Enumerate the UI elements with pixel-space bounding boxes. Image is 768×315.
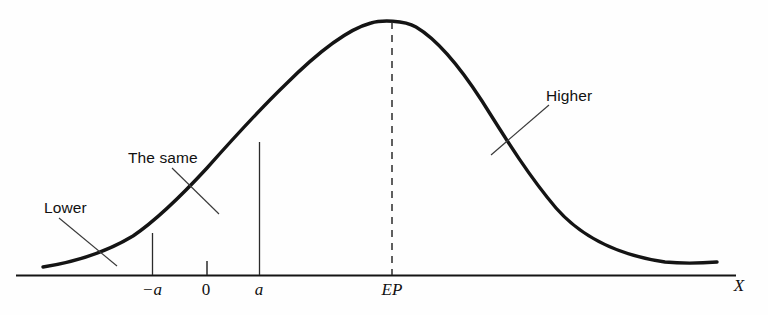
- normal-curve-figure: Lower The same Higher −a 0 a EP X: [0, 0, 768, 315]
- figure-svg: Lower The same Higher −a 0 a EP X: [0, 0, 768, 315]
- annotation-higher: Higher: [546, 87, 592, 104]
- leader-line-the-same: [172, 168, 219, 214]
- distribution-curve: [43, 21, 717, 267]
- leader-line-lower: [59, 218, 117, 266]
- annotation-the-same: The same: [128, 149, 198, 166]
- tick-label-ep: EP: [381, 280, 403, 299]
- annotation-lower: Lower: [44, 199, 87, 216]
- x-axis-label: X: [733, 276, 745, 295]
- tick-label-zero: 0: [202, 280, 211, 299]
- tick-label-a: a: [255, 280, 264, 299]
- tick-label-minus-a: −a: [142, 280, 162, 299]
